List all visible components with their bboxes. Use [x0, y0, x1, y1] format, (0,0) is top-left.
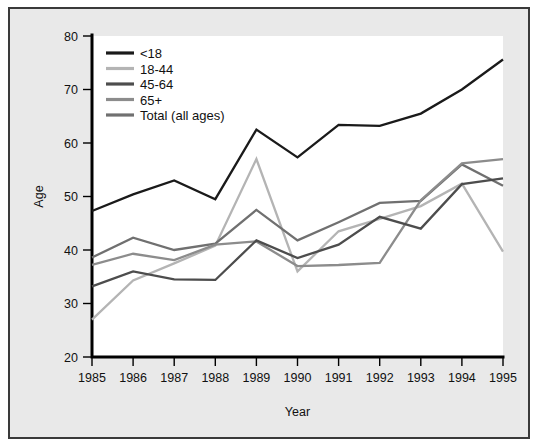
legend-label-3: 65+ [140, 93, 162, 108]
line-chart: 2030405060708019851986198719881989199019… [10, 9, 528, 437]
legend-label-1: 18-44 [140, 62, 173, 77]
x-tick-label: 1987 [160, 371, 188, 385]
y-tick-label: 40 [64, 244, 78, 258]
y-tick-label: 60 [64, 137, 78, 151]
x-tick-label: 1992 [366, 371, 394, 385]
y-tick-label: 70 [64, 83, 78, 97]
x-tick-label: 1988 [201, 371, 229, 385]
x-tick-label: 1993 [407, 371, 435, 385]
x-tick-label: 1994 [448, 371, 476, 385]
x-tick-label: 1989 [242, 371, 270, 385]
x-tick-label: 1991 [325, 371, 353, 385]
x-tick-label: 1995 [489, 371, 517, 385]
x-tick-label: 1990 [284, 371, 312, 385]
y-tick-label: 80 [64, 30, 78, 44]
y-tick-label: 20 [64, 351, 78, 365]
legend-label-0: <18 [140, 46, 162, 61]
legend-label-4: Total (all ages) [140, 108, 225, 123]
legend-label-2: 45-64 [140, 77, 173, 92]
x-tick-label: 1986 [119, 371, 147, 385]
y-axis-title: Age [32, 185, 46, 207]
figure-container: 2030405060708019851986198719881989199019… [0, 0, 541, 448]
y-tick-label: 50 [64, 190, 78, 204]
chart-panel: 2030405060708019851986198719881989199019… [8, 7, 530, 439]
y-tick-label: 30 [64, 297, 78, 311]
x-tick-label: 1985 [78, 371, 106, 385]
x-axis-title: Year [285, 405, 310, 419]
